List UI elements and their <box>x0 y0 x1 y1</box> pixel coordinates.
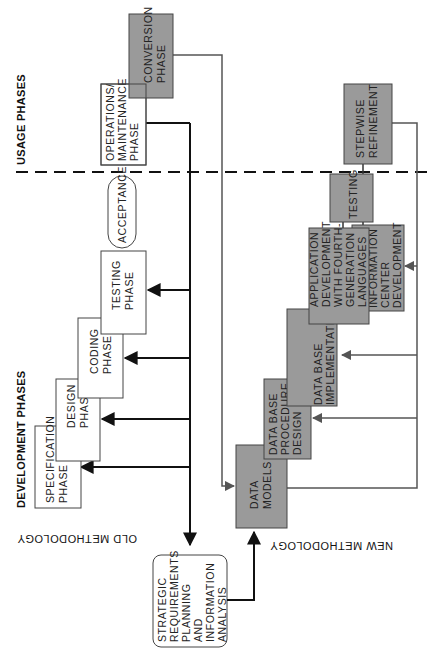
testing-phase-box: TESTINGPHASE <box>101 251 146 334</box>
conversion-feedback-line <box>173 55 234 486</box>
strategic-to-data-models-arrow <box>227 532 254 600</box>
methodology-diagram: USAGE PHASES DEVELOPMENT PHASES OLD METH… <box>0 0 439 650</box>
development-phases-label: DEVELOPMENT PHASES <box>15 371 27 508</box>
svg-text:ACCEPTANCE: ACCEPTANCE <box>116 166 128 243</box>
new-methodology-label: NEW METHODOLOGY <box>270 540 393 552</box>
acceptance-box: ACCEPTANCE <box>108 166 136 248</box>
usage-phases-label: USAGE PHASES <box>15 74 27 165</box>
stepwise-refinement-box: STEPWISEREFINEMENT <box>344 84 392 164</box>
strategic-requirements-box: STRATEGIC REQUIREMENTS PLANNING AND INFO… <box>153 547 228 647</box>
svg-text:TESTING: TESTING <box>347 169 359 219</box>
app-development-box: APPLICATION DEVELOPMENT WITH FOURTH- GEN… <box>308 218 369 324</box>
old-methodology-label: OLD METHODOLOGY <box>17 533 137 545</box>
new-testing-box: TESTING <box>330 169 373 222</box>
